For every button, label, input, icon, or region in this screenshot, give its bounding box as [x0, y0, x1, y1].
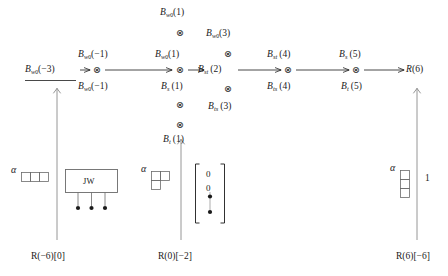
caption-left: R(−6)[0] — [31, 251, 65, 261]
diagram-vector-layer — [0, 0, 448, 276]
term-main-1: Bst (2) — [198, 65, 222, 75]
term-terminal: R(6) — [406, 65, 423, 75]
term-top-1: Bw0(3) — [206, 29, 230, 39]
young-diagram-row-of-three — [22, 173, 49, 182]
vector-entry-0: 0 — [206, 169, 211, 179]
right-multiplicity-label: 1 — [425, 173, 430, 183]
caption-middle: R(0)[−2] — [158, 251, 192, 261]
term-main-0: Bw0(−3) — [25, 65, 55, 75]
tensor-symbol-0: ⊗ — [176, 28, 184, 38]
term-top-0: Bw0(1) — [160, 8, 184, 18]
term-lower-3: Bt (5) — [341, 82, 362, 92]
alpha-label-2: α — [390, 162, 395, 173]
alpha-label-1: α — [141, 163, 146, 174]
jw-box-label: JW — [83, 176, 95, 186]
tensor-symbol-2: ⊗ — [93, 65, 101, 75]
figure-canvas: Bw0(1) ⊗ Bw0(3) Bw0(−1) Bw0(1) ⊗ Bst (4)… — [0, 0, 448, 276]
term-upper-0: Bw0(−1) — [78, 50, 108, 60]
term-lower-1: Bs (1) — [161, 82, 183, 92]
caption-right: R(6)[−6] — [396, 251, 430, 261]
term-lower-0: Bw0(−1) — [78, 82, 108, 92]
term-upper-3: Bs (5) — [339, 50, 361, 60]
vertical-rules — [57, 88, 417, 240]
young-diagram-L-shape — [152, 172, 170, 190]
tensor-symbol-5: ⊗ — [352, 65, 360, 75]
tensor-symbol-8: ⊗ — [176, 120, 184, 130]
young-diagram-column-of-three — [401, 171, 410, 198]
vertical-arrowheads — [54, 88, 421, 144]
tensor-symbol-7: ⊗ — [176, 100, 184, 110]
term-upper-2: Bst (4) — [267, 50, 291, 60]
term-bottom-0: Bts (3) — [208, 102, 232, 112]
term-bottom-1: Bt (1) — [163, 135, 184, 145]
tensor-symbol-4: ⊗ — [284, 65, 292, 75]
tensor-symbol-3: ⊗ — [176, 65, 184, 75]
vector-entry-1: 0 — [206, 183, 211, 193]
tensor-symbol-6: ⊗ — [224, 84, 232, 94]
column-vector-dots — [208, 194, 212, 214]
alpha-label-0: α — [11, 164, 16, 175]
term-lower-2: Bts (4) — [267, 82, 291, 92]
tensor-symbol-1: ⊗ — [224, 49, 232, 59]
term-upper-1: Bw0(1) — [155, 50, 179, 60]
